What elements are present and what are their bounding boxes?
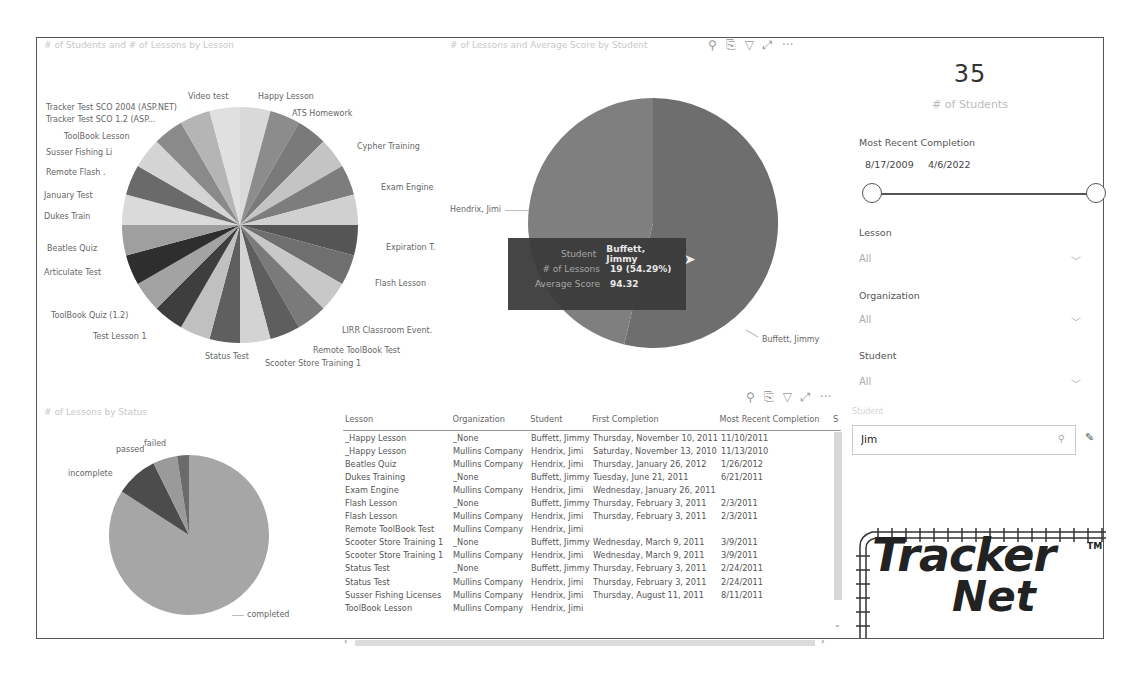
cell-student: Hendrix, Jimi — [531, 446, 593, 456]
cell-organization: _None — [453, 433, 531, 443]
cell-student: Hendrix, Jimi — [531, 577, 593, 587]
cell-student: Buffett, Jimmy — [531, 563, 593, 573]
cell-lesson: Beatles Quiz — [343, 459, 453, 469]
date-end[interactable]: 4/6/2022 — [928, 159, 971, 170]
chevron-down-icon: ﹀ — [1071, 253, 1081, 268]
cell-organization: _None — [453, 563, 531, 573]
cell-student: Hendrix, Jimi — [531, 459, 593, 469]
filter-icon[interactable]: ▽ — [783, 390, 792, 404]
student-search-input[interactable] — [861, 433, 1041, 445]
scroll-down-arrow-icon[interactable]: ⌄ — [834, 620, 841, 629]
organization-dropdown[interactable]: All ﹀ — [859, 314, 1081, 332]
pie-label-lesson: Cypher Training — [357, 142, 420, 151]
column-header-most-recent-completion[interactable]: Most Recent Completion — [719, 414, 833, 424]
pie-label-lesson: Expiration T. — [386, 243, 436, 252]
lessons-pie-chart[interactable] — [120, 105, 360, 345]
cell-most-recent-completion: 11/13/2010 — [721, 446, 835, 456]
pie-label-buffett: Buffett, Jimmy — [762, 335, 819, 344]
cell-first-completion: Thursday, February 3, 2011 — [593, 511, 721, 521]
students-pie-chart[interactable] — [528, 98, 778, 348]
cell-lesson: Status Test — [343, 563, 453, 573]
more-options-icon[interactable]: ··· — [820, 390, 831, 404]
cell-most-recent-completion: 8/11/2011 — [721, 590, 835, 600]
lesson-slicer-title: Lesson — [859, 227, 892, 238]
filter-icon[interactable]: ▽ — [745, 38, 754, 52]
cell-most-recent-completion: 3/9/2011 — [721, 537, 835, 547]
focus-mode-icon[interactable]: ⤢ — [801, 390, 811, 404]
table-row[interactable]: Dukes Training_NoneBuffett, JimmyTuesday… — [343, 470, 841, 483]
focus-mode-icon[interactable]: ⤢ — [763, 38, 773, 52]
copy-icon[interactable]: ⎘ — [726, 38, 736, 52]
cell-student: Hendrix, Jimi — [531, 524, 593, 534]
copy-icon[interactable]: ⎘ — [764, 390, 774, 404]
cell-student: Hendrix, Jimi — [531, 590, 593, 600]
cell-organization: Mullins Company — [453, 590, 531, 600]
pie-label-hendrix: Hendrix, Jimi — [450, 205, 501, 214]
column-header-lesson[interactable]: Lesson — [343, 414, 453, 424]
cell-first-completion: Tuesday, June 21, 2011 — [593, 472, 721, 482]
date-range-end-handle[interactable] — [1086, 183, 1106, 203]
scroll-left-arrow-icon[interactable]: ‹ — [344, 636, 348, 646]
table-vertical-scrollbar[interactable] — [834, 432, 842, 600]
status-pie-chart[interactable] — [109, 455, 269, 615]
cell-first-completion: Saturday, November 13, 2010 — [593, 446, 721, 456]
cell-organization: _None — [453, 537, 531, 547]
pie-label-lesson: Dukes Train — [44, 212, 90, 221]
column-header-first-completion[interactable]: First Completion — [592, 414, 719, 424]
cell-organization: Mullins Company — [453, 485, 531, 495]
more-options-icon[interactable]: ··· — [782, 38, 793, 52]
chart-tooltip: StudentBuffett, Jimmy # of Lessons19 (54… — [508, 238, 686, 310]
table-row[interactable]: Status Test_NoneBuffett, JimmyThursday, … — [343, 562, 841, 575]
student-dropdown[interactable]: All ﹀ — [859, 376, 1081, 394]
pie-label-lesson: Scooter Store Training 1 — [265, 359, 361, 368]
table-row[interactable]: Exam EngineMullins CompanyHendrix, JimiW… — [343, 483, 841, 496]
clear-eraser-icon[interactable]: ✎ — [1085, 431, 1094, 444]
cell-student: Hendrix, Jimi — [531, 550, 593, 560]
table-row[interactable]: Status TestMullins CompanyHendrix, JimiT… — [343, 575, 841, 588]
pin-icon[interactable]: ⚲ — [746, 390, 755, 404]
date-start[interactable]: 8/17/2009 — [865, 159, 914, 170]
cell-most-recent-completion: 2/24/2011 — [721, 577, 835, 587]
cell-organization: Mullins Company — [453, 524, 531, 534]
cell-organization: Mullins Company — [453, 446, 531, 456]
chevron-down-icon: ﹀ — [1071, 314, 1081, 329]
table-row[interactable]: Flash Lesson_NoneBuffett, JimmyThursday,… — [343, 496, 841, 509]
student-search-box[interactable]: ⚲ — [852, 425, 1076, 455]
table-row[interactable]: ToolBook LessonMullins CompanyHendrix, J… — [343, 601, 841, 614]
pie-label-lesson: Exam Engine — [381, 183, 433, 192]
table-row[interactable]: Susser Fishing LicensesMullins CompanyHe… — [343, 588, 841, 601]
cell-lesson: Status Test — [343, 577, 453, 587]
lesson-dropdown[interactable]: All ﹀ — [859, 253, 1081, 271]
table-row[interactable]: _Happy Lesson_NoneBuffett, JimmyThursday… — [343, 431, 841, 444]
table-row[interactable]: _Happy LessonMullins CompanyHendrix, Jim… — [343, 444, 841, 457]
cell-organization: Mullins Company — [453, 459, 531, 469]
cell-first-completion: Thursday, August 11, 2011 — [593, 590, 721, 600]
date-range-start-handle[interactable] — [862, 183, 882, 203]
table-row[interactable]: Scooter Store Training 1Mullins CompanyH… — [343, 549, 841, 562]
table-horizontal-scrollbar[interactable] — [355, 640, 815, 646]
date-range-track[interactable] — [873, 193, 1098, 195]
visual-header-top: ⚲ ⎘ ▽ ⤢ ··· — [708, 38, 793, 52]
mouse-cursor-icon: ➤ — [684, 251, 696, 267]
students-count-value: 35 — [900, 60, 1040, 88]
table-row[interactable]: Scooter Store Training 1_NoneBuffett, Ji… — [343, 536, 841, 549]
logo-net: Net — [952, 572, 1036, 621]
column-header-student[interactable]: Student — [530, 414, 592, 424]
date-slicer-title: Most Recent Completion — [859, 137, 975, 148]
pie-label-lesson: Status Test — [205, 352, 249, 361]
pin-icon[interactable]: ⚲ — [708, 38, 717, 52]
table-row[interactable]: Remote ToolBook TestMullins CompanyHendr… — [343, 523, 841, 536]
column-header-score[interactable]: S — [833, 414, 841, 424]
cell-first-completion: Thursday, February 3, 2011 — [593, 498, 721, 508]
cell-first-completion: Wednesday, January 26, 2011 — [593, 485, 721, 495]
pie-label-lesson: Remote ToolBook Test — [313, 346, 400, 355]
table-row[interactable]: Beatles QuizMullins CompanyHendrix, Jimi… — [343, 457, 841, 470]
column-header-organization[interactable]: Organization — [453, 414, 531, 424]
scroll-right-arrow-icon[interactable]: › — [821, 636, 825, 646]
cell-first-completion: Thursday, February 3, 2011 — [593, 563, 721, 573]
cell-first-completion: Wednesday, March 9, 2011 — [593, 537, 721, 547]
table-row[interactable]: Flash LessonMullins CompanyHendrix, Jimi… — [343, 510, 841, 523]
organization-dropdown-value: All — [859, 314, 871, 325]
pie-label-lesson: January Test — [44, 191, 93, 200]
search-icon[interactable]: ⚲ — [1058, 433, 1065, 444]
